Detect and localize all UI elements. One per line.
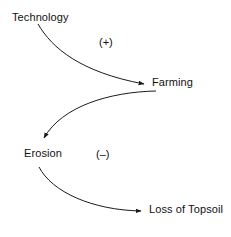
node-label-farming: Farming <box>152 76 193 89</box>
polarity-label-negative: (–) <box>96 148 109 161</box>
diagram-canvas <box>0 0 231 237</box>
node-label-technology: Technology <box>12 11 69 24</box>
node-label-loss-of-topsoil: Loss of Topsoil <box>149 203 223 216</box>
polarity-label-positive: (+) <box>99 36 113 49</box>
causal-loop-diagram: Technology Farming Erosion Loss of Topso… <box>0 0 231 237</box>
node-label-erosion: Erosion <box>24 147 62 160</box>
edge-technology-to-farming <box>38 24 144 84</box>
edge-erosion-to-loss-of-topsoil <box>39 167 141 211</box>
edge-farming-to-erosion <box>44 91 156 138</box>
